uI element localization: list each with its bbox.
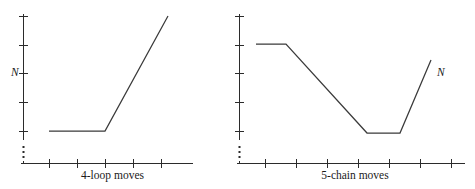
caption-4-loop-moves: 4-loop moves: [0, 170, 225, 182]
chart-svg-4-loop-moves: [0, 0, 238, 189]
data-series-5-chain-moves: [256, 44, 431, 133]
data-series-4-loop-moves: [49, 16, 168, 131]
y-axis-break-dot: [239, 146, 241, 148]
y-axis-break-dot: [239, 151, 241, 153]
chart-panel-5-chain-moves: N: [225, 0, 475, 189]
chart-panel-4-loop-moves: N: [0, 0, 238, 189]
y-axis-break-dot: [239, 156, 241, 158]
figure-root: N: [0, 0, 475, 189]
caption-5-chain-moves: 5-chain moves: [235, 170, 475, 182]
chart-svg-5-chain-moves: [225, 0, 475, 189]
y-axis-break-dot: [23, 146, 25, 148]
y-axis-break-dot: [23, 156, 25, 158]
y-axis-label-right: N: [437, 67, 445, 79]
y-axis-break-dot: [23, 151, 25, 153]
y-axis-label-left: N: [11, 67, 19, 79]
